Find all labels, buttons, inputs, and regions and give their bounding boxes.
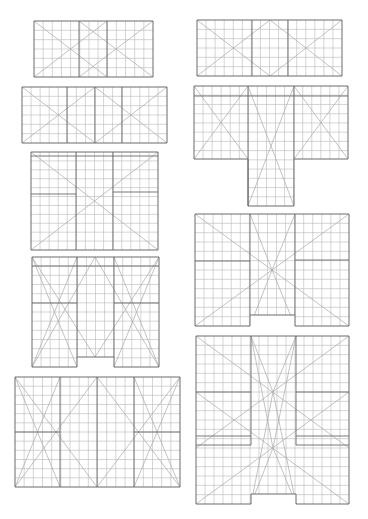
grid-lines xyxy=(34,21,153,77)
grid-lines xyxy=(32,257,159,367)
net-panel-l5 xyxy=(15,377,181,488)
grid-lines xyxy=(197,20,342,76)
grid-lines xyxy=(196,336,349,504)
net-panel-r2 xyxy=(194,86,349,207)
grid-lines xyxy=(194,86,348,206)
grid-lines xyxy=(195,214,349,326)
net-panel-r1 xyxy=(197,20,343,77)
grid-lines xyxy=(22,87,167,143)
net-panel-l2 xyxy=(22,87,168,144)
net-panel-l1 xyxy=(34,21,154,78)
net-panel-r3 xyxy=(195,214,350,327)
grid-lines xyxy=(31,152,158,250)
net-panel-l4 xyxy=(32,257,160,368)
net-panel-l3 xyxy=(31,152,159,251)
net-panel-r4 xyxy=(196,336,350,505)
